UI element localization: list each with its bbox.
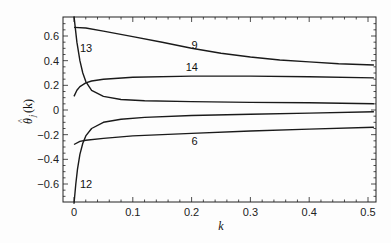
curve-label-6: 6	[192, 135, 198, 147]
y-tick-label: −0.6	[37, 178, 59, 190]
axis-ticks	[63, 17, 376, 202]
x-tick-label: 0.1	[125, 206, 140, 218]
y-tick-label: −0.2	[37, 129, 59, 141]
x-tick-label: 0.2	[184, 206, 199, 218]
svg-text:j: j	[28, 114, 37, 118]
y-tick-label: 0.2	[44, 79, 59, 91]
y-tick-label: 0.6	[44, 30, 59, 42]
curve-13	[74, 16, 374, 104]
curves	[74, 16, 374, 203]
curve-label-14: 14	[186, 61, 198, 73]
curve-9	[74, 27, 374, 65]
curve-6	[74, 127, 374, 144]
y-axis-title: θ ^ j (k)	[16, 99, 37, 124]
y-tick-label: 0	[53, 104, 59, 116]
y-tick-label: 0.4	[44, 55, 59, 67]
curve-label-9: 9	[192, 39, 198, 51]
x-tick-label: 0	[71, 206, 77, 218]
curve-14	[74, 76, 374, 96]
x-axis-title: k	[218, 219, 224, 233]
curve-12	[74, 112, 374, 204]
x-tick-label: 0.5	[360, 206, 375, 218]
x-tick-label: 0.4	[302, 206, 317, 218]
chart: 00.10.20.30.40.5−0.6−0.4−0.200.20.40.6 9…	[0, 0, 391, 243]
plot-frame	[63, 17, 376, 202]
x-tick-label: 0.3	[243, 206, 258, 218]
curve-labels: 91413126	[80, 39, 198, 190]
curve-label-12: 12	[80, 178, 92, 190]
svg-text:(k): (k)	[21, 99, 35, 113]
curve-label-13: 13	[80, 42, 92, 54]
y-tick-label: −0.4	[37, 153, 59, 165]
